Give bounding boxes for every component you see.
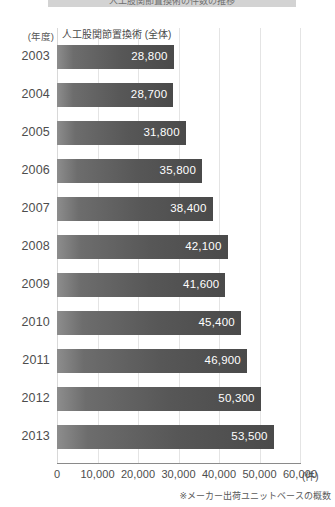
bar-row: 201146,900 [0,344,335,382]
x-tick-label: 30,000 [161,468,195,480]
bar-track: 31,800 [57,121,300,145]
x-axis-line [57,463,301,464]
year-label: 2006 [0,163,50,177]
bar-value-label: 50,300 [218,392,254,404]
bar[interactable]: 35,800 [57,159,202,183]
bar-track: 28,700 [57,83,300,107]
year-label: 2013 [0,429,50,443]
bar-track: 41,600 [57,273,300,297]
bar-value-label: 45,400 [198,316,234,328]
bar-value-label: 42,100 [185,240,221,252]
x-tick-label: 10,000 [80,468,114,480]
bar[interactable]: 53,500 [57,425,274,449]
bar[interactable]: 46,900 [57,349,247,373]
bar-value-label: 28,800 [131,50,167,62]
bar-chart: (年度) 人工股関節置換術 (全体) 200328,800200428,7002… [0,0,335,507]
bar-row: 200842,100 [0,230,335,268]
bar[interactable]: 50,300 [57,387,261,411]
bar-track: 28,800 [57,45,300,69]
x-tick-label: 20,000 [121,468,155,480]
year-label: 2008 [0,239,50,253]
year-label: 2010 [0,315,50,329]
bar-track: 50,300 [57,387,300,411]
bar-row: 200328,800 [0,40,335,78]
bar-track: 42,100 [57,235,300,259]
year-label: 2005 [0,125,50,139]
bar-track: 38,400 [57,197,300,221]
bar[interactable]: 38,400 [57,197,213,221]
bar[interactable]: 42,100 [57,235,228,259]
bar-value-label: 35,800 [160,164,196,176]
bar-track: 46,900 [57,349,300,373]
bar-track: 35,800 [57,159,300,183]
x-axis-unit: (件) [302,468,319,483]
bar-value-label: 46,900 [205,354,241,366]
bar-row: 201353,500 [0,420,335,458]
bar-row: 200428,700 [0,78,335,116]
bar-row: 200635,800 [0,154,335,192]
bar[interactable]: 41,600 [57,273,225,297]
bar-track: 45,400 [57,311,300,335]
year-label: 2011 [0,353,50,367]
bar-value-label: 53,500 [231,430,267,442]
bar-row: 200738,400 [0,192,335,230]
year-label: 2003 [0,49,50,63]
bar[interactable]: 28,700 [57,83,173,107]
bar-value-label: 28,700 [131,88,167,100]
bar-row: 200941,600 [0,268,335,306]
bar[interactable]: 45,400 [57,311,241,335]
bar-row: 201250,300 [0,382,335,420]
bar-value-label: 31,800 [143,126,179,138]
bar-track: 53,500 [57,425,300,449]
year-label: 2007 [0,201,50,215]
x-tick-label: 50,000 [242,468,276,480]
bar-value-label: 38,400 [170,202,206,214]
chart-footnote: ※メーカー出荷ユニットベースの概数 [179,489,331,502]
year-label: 2012 [0,391,50,405]
bar-row: 200531,800 [0,116,335,154]
x-tick-label: 0 [54,468,60,480]
bar[interactable]: 28,800 [57,45,174,69]
year-label: 2004 [0,87,50,101]
year-label: 2009 [0,277,50,291]
bar-row: 201045,400 [0,306,335,344]
bar[interactable]: 31,800 [57,121,186,145]
x-tick-label: 40,000 [202,468,236,480]
bar-value-label: 41,600 [183,278,219,290]
